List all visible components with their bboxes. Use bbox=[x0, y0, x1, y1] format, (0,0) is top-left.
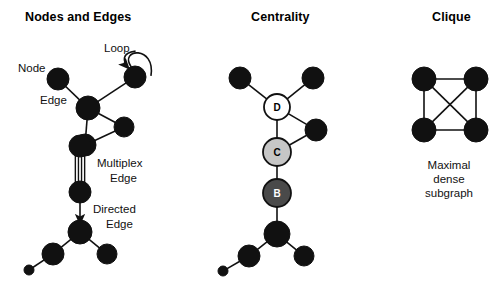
nodes-group: DCB bbox=[24, 66, 488, 276]
annotation-label-multiplex2: Edge bbox=[110, 172, 137, 184]
annotation-label-edge: Edge bbox=[40, 94, 67, 106]
annotation-label-multiplex: Multiplex bbox=[97, 157, 142, 169]
annotation-label-directed: Directed bbox=[93, 203, 136, 215]
graph-node bbox=[47, 68, 69, 90]
graph-node bbox=[464, 67, 488, 91]
caption-line: dense bbox=[425, 172, 473, 186]
figure-canvas: DCB Nodes and EdgesNodeEdgeLoopMultiplex… bbox=[0, 0, 503, 289]
graph-node bbox=[229, 67, 251, 89]
graph-node bbox=[69, 135, 91, 157]
graph-node bbox=[114, 117, 134, 137]
graph-node bbox=[76, 96, 100, 120]
graph-node-label: B bbox=[273, 188, 280, 199]
graph-node bbox=[412, 118, 436, 142]
graph-node bbox=[97, 244, 117, 264]
graph-node bbox=[24, 265, 34, 275]
annotation-label-directed2: Edge bbox=[106, 218, 133, 230]
caption-line: Maximal bbox=[425, 158, 473, 172]
edge-line bbox=[94, 80, 130, 104]
panel-title-nodes-and-edges: Nodes and Edges bbox=[25, 10, 131, 24]
graph-node-label: D bbox=[273, 102, 280, 113]
graph-node bbox=[264, 221, 290, 247]
graph-node bbox=[294, 246, 314, 266]
graph-node bbox=[238, 245, 260, 267]
graph-node bbox=[124, 66, 146, 88]
panel-title-centrality: Centrality bbox=[251, 10, 310, 24]
graph-node bbox=[69, 181, 91, 203]
panel-caption-clique: Maximaldensesubgraph bbox=[425, 158, 473, 200]
graph-node-label: C bbox=[273, 147, 280, 158]
graph-node bbox=[68, 220, 92, 244]
graph-node bbox=[464, 118, 488, 142]
graph-node bbox=[305, 119, 327, 141]
panel-title-clique: Clique bbox=[432, 10, 471, 24]
annotation-label-loop: Loop bbox=[104, 42, 130, 54]
graph-node bbox=[218, 266, 228, 276]
graph-node bbox=[302, 67, 324, 89]
caption-line: subgraph bbox=[425, 186, 473, 200]
network-graphics-layer: DCB bbox=[0, 0, 503, 289]
graph-node bbox=[42, 243, 64, 265]
annotation-label-node: Node bbox=[18, 62, 46, 74]
graph-node bbox=[412, 67, 436, 91]
